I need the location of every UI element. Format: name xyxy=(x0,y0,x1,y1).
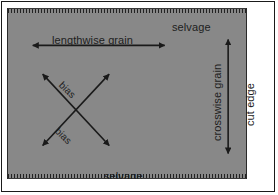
fabric-grain-diagram: selvage selvage lengthwise grain crosswi… xyxy=(0,0,278,195)
lengthwise-grain-label: lengthwise grain xyxy=(52,35,133,46)
bias-upper-label: bias xyxy=(57,80,77,100)
selvage-edge-top xyxy=(8,9,246,13)
crosswise-grain-label: crosswise grain xyxy=(212,64,223,141)
selvage-top-label: selvage xyxy=(172,22,211,33)
cut-edge-label: cut edge xyxy=(245,83,256,126)
selvage-bottom-label: selvage xyxy=(104,171,143,179)
bias-lower-label: bias xyxy=(53,126,73,146)
bias-arrow-nw-se xyxy=(43,74,109,145)
bias-arrow-ne-sw xyxy=(43,74,109,145)
fabric-panel: selvage selvage lengthwise grain crosswi… xyxy=(7,8,247,179)
